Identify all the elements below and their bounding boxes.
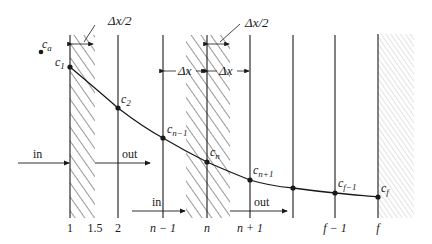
point-c_f: [375, 194, 380, 199]
in-label-center: in: [152, 195, 161, 209]
diagram-canvas: c1c2cn−1cncn+1cf−1cf ca Δx/2 Δx/2 Δx Δx …: [0, 0, 432, 244]
tick-label-line-n: n: [204, 221, 210, 235]
tick-label-line-f-minus-1: f − 1: [323, 221, 346, 235]
point-c_2: [115, 105, 120, 110]
point-label-c_f-1: cf−1: [338, 176, 356, 192]
point-c_n-1: [160, 135, 165, 140]
tick-label-line-f: f: [376, 221, 381, 235]
tick-label-line-2: 2: [115, 221, 121, 235]
point-c_n+1: [247, 177, 252, 182]
point-c_n: [204, 159, 209, 164]
tick-label-line-1-5: 1.5: [88, 221, 103, 235]
tick-label-line-n-plus-1: n + 1: [237, 221, 263, 235]
tick-label-line-n-minus-1: n − 1: [150, 221, 176, 235]
point-c_f-1: [332, 190, 337, 195]
half-dx-left-label: Δx/2: [107, 13, 132, 28]
point-label-c_n-1: cn−1: [167, 122, 187, 138]
out-label-left: out: [122, 147, 138, 161]
point-label-c_2: c2: [121, 92, 131, 108]
hatched-cell-1: [70, 35, 95, 218]
point-label-c_n+1: cn+1: [253, 163, 273, 179]
point-c_unlabeled: [290, 185, 295, 190]
out-label-center: out: [254, 195, 270, 209]
tick-label-line-1: 1: [67, 221, 73, 235]
ambient-label: ca: [42, 37, 52, 53]
point-c_1: [67, 64, 72, 69]
half-dx-center-label: Δx/2: [244, 15, 269, 30]
point-label-c_1: c1: [55, 55, 65, 71]
dx-right-label: Δx: [218, 63, 233, 78]
in-label-left: in: [33, 147, 42, 161]
dx-left-label: Δx: [177, 63, 192, 78]
